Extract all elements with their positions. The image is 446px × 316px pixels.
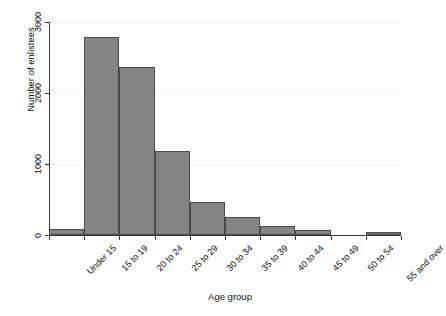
bar	[295, 230, 330, 235]
x-tick-label: 45 to 49	[330, 243, 360, 273]
bar	[84, 37, 119, 235]
x-tick-label: 20 to 24	[154, 243, 184, 273]
plot-area: 0100020003000 Under 1515 to 1920 to 2425…	[49, 22, 401, 236]
x-tick-mark	[331, 236, 332, 240]
x-tick-mark	[119, 236, 120, 240]
y-tick-mark	[45, 93, 49, 94]
bar	[260, 226, 295, 235]
x-tick-mark	[190, 236, 191, 240]
bar	[190, 202, 225, 235]
x-tick-mark	[295, 236, 296, 240]
y-tick-mark	[45, 164, 49, 165]
x-tick-label: 15 to 19	[119, 243, 149, 273]
bar	[49, 229, 84, 235]
x-tick-mark	[49, 236, 50, 240]
x-tick-label: 30 to 34	[225, 243, 255, 273]
x-tick-mark	[401, 236, 402, 240]
x-tick-mark	[260, 236, 261, 240]
bar	[155, 151, 190, 235]
bar	[366, 232, 401, 235]
gridline	[50, 22, 401, 23]
x-tick-mark	[84, 236, 85, 240]
y-tick-label-text: 2000	[34, 71, 43, 115]
x-tick-label: 40 to 44	[295, 243, 325, 273]
bar	[225, 217, 260, 235]
x-tick-mark	[225, 236, 226, 240]
x-tick-label: 55 and over	[405, 243, 446, 284]
y-tick-mark	[45, 22, 49, 23]
x-tick-label: Under 15	[85, 243, 118, 276]
y-axis-line	[49, 22, 50, 236]
y-tick-label-text: 3000	[34, 0, 43, 44]
bar	[119, 67, 154, 235]
x-tick-mark	[366, 236, 367, 240]
x-axis-title: Age group	[140, 291, 320, 302]
x-tick-label: 25 to 29	[189, 243, 219, 273]
x-tick-label: 50 to 54	[365, 243, 395, 273]
x-tick-label: 35 to 39	[260, 243, 290, 273]
y-tick-label-text: 1000	[34, 142, 43, 186]
x-tick-mark	[155, 236, 156, 240]
y-tick-label-text: 0	[34, 213, 43, 257]
